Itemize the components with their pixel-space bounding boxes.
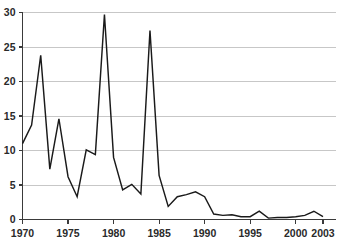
x-axis [23,220,337,224]
y-tick-label-25: 25 [4,41,16,53]
x-tick-label-1970: 1970 [11,227,35,239]
y-tick-label-0: 0 [10,213,16,225]
line-chart-plot: 051015202530 197019751980198519901995200… [0,0,337,243]
y-tick-label-10: 10 [4,144,16,156]
gridlines-group [23,13,337,186]
x-tick-label-2003: 2003 [311,227,335,239]
y-axis [19,13,23,220]
x-tick-label-1990: 1990 [193,227,217,239]
x-tick-label-1995: 1995 [238,227,262,239]
x-tick-label-2000: 2000 [284,227,308,239]
y-axis-tick-labels: 051015202530 [4,6,16,225]
y-tick-label-5: 5 [10,179,16,191]
x-axis-tick-labels: 19701975198019851990199520002003 [11,227,335,239]
y-tick-label-15: 15 [4,110,16,122]
x-tick-label-1975: 1975 [56,227,80,239]
x-tick-label-1980: 1980 [102,227,126,239]
y-tick-label-30: 30 [4,6,16,18]
chart-container: 051015202530 197019751980198519901995200… [0,0,337,243]
x-tick-label-1985: 1985 [147,227,171,239]
y-tick-label-20: 20 [4,75,16,87]
